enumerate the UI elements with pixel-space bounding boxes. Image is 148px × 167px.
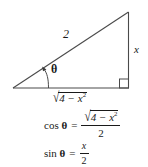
cosine-identity-equation: cos θ = √4 − x2 2	[44, 110, 120, 140]
radical-sign-icon: √	[84, 109, 90, 126]
trigonometry-figure: 2 x θ √4 − x2 cos θ = √4 − x2 2 sin θ = …	[0, 0, 148, 167]
adjacent-side-label: √4 − x2	[52, 92, 87, 105]
cosine-function-name: cos	[44, 119, 59, 131]
cosine-denominator: 2	[96, 126, 106, 140]
right-angle-square-icon	[120, 79, 129, 88]
sine-equals-sign: =	[65, 147, 79, 159]
cosine-radicand-exponent: 2	[114, 110, 117, 117]
cosine-numerator: √4 − x2	[81, 110, 120, 125]
angle-theta-label: θ	[51, 63, 57, 75]
sine-lhs: sin θ	[44, 147, 65, 159]
cosine-radicand: 4 − x2	[90, 110, 119, 124]
cosine-lhs: cos θ	[44, 119, 67, 131]
sine-function-name: sin	[44, 147, 57, 159]
adjacent-radicand-base: 4 − x	[59, 92, 82, 104]
cosine-radicand-base: 4 − x	[91, 111, 114, 123]
sine-fraction: x 2	[80, 140, 89, 166]
adjacent-radical: √4 − x2	[52, 92, 87, 105]
radical-sign-icon: √	[53, 91, 59, 105]
cosine-equals-sign: =	[67, 119, 81, 131]
angle-arc-arrow-icon	[44, 69, 49, 88]
sine-identity-equation: sin θ = x 2	[44, 140, 89, 166]
triangle-hypotenuse-line	[13, 12, 129, 88]
sine-denominator: 2	[80, 154, 89, 167]
cosine-numerator-radical: √4 − x2	[83, 110, 118, 124]
opposite-side-label: x	[134, 44, 139, 55]
adjacent-radicand: 4 − x2	[58, 92, 87, 104]
hypotenuse-label: 2	[63, 28, 69, 40]
adjacent-radicand-exponent: 2	[83, 91, 86, 98]
sine-numerator: x	[80, 140, 88, 153]
cosine-fraction: √4 − x2 2	[81, 110, 120, 140]
